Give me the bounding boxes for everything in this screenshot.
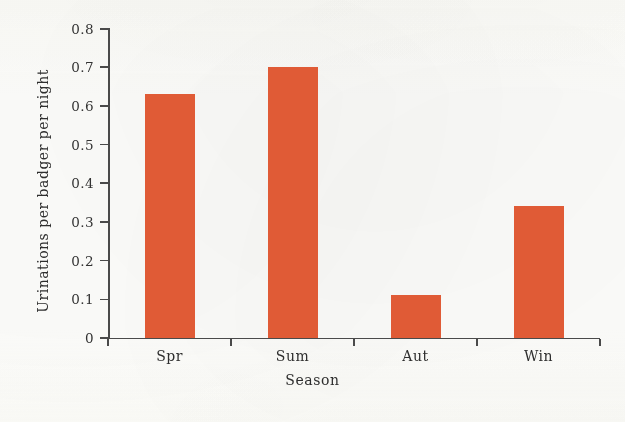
x-axis-tick (353, 339, 355, 346)
bar-chart-figure: 00.10.20.30.40.50.60.70.8 SprSumAutWin S… (0, 0, 625, 422)
y-axis-tick (100, 182, 108, 184)
bar-win (514, 206, 564, 338)
x-axis-label-aut: Aut (354, 348, 477, 364)
x-axis-label-spr: Spr (108, 348, 231, 364)
y-axis-line (108, 28, 110, 339)
x-axis-tick (599, 339, 601, 346)
x-axis-tick (476, 339, 478, 346)
bar-aut (391, 295, 441, 338)
x-axis-label-win: Win (477, 348, 600, 364)
x-axis-title: Season (0, 372, 625, 388)
x-axis-origin-tick (107, 339, 109, 346)
bar-spr (145, 94, 195, 338)
y-axis-tick (100, 260, 108, 262)
y-axis-tick (100, 66, 108, 68)
y-axis-tick (100, 144, 108, 146)
y-axis-tick (100, 299, 108, 301)
x-axis-tick (230, 339, 232, 346)
y-axis-tick (100, 105, 108, 107)
bar-sum (268, 67, 318, 338)
y-axis-tick (100, 221, 108, 223)
y-axis-tick (100, 28, 108, 30)
x-axis-label-sum: Sum (231, 348, 354, 364)
y-axis-title: Urinations per badger per night (35, 31, 51, 351)
